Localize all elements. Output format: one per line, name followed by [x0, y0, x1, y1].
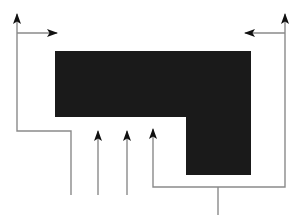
figure-canvas [0, 0, 296, 221]
diagram-svg [0, 0, 296, 221]
